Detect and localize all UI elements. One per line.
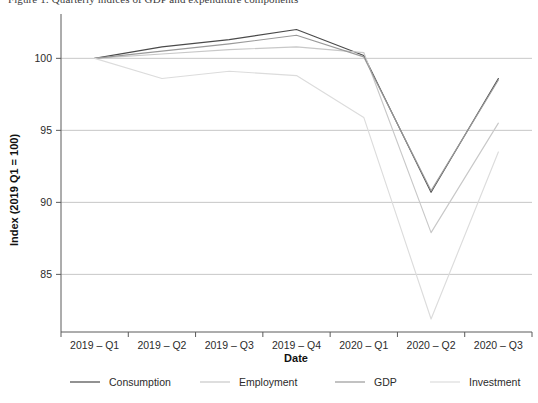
y-tick-label-group: 859095100 <box>34 52 52 280</box>
legend-label-gdp: GDP <box>374 376 397 388</box>
series-group <box>95 30 499 320</box>
series-line-investment <box>95 58 499 319</box>
series-line-employment <box>95 47 499 233</box>
x-tick-label: 2019 – Q2 <box>137 339 186 351</box>
x-tick-label: 2020 – Q3 <box>474 339 523 351</box>
x-tick-label: 2019 – Q3 <box>205 339 254 351</box>
legend: ConsumptionEmploymentGDPInvestment <box>70 376 520 388</box>
y-tick-label: 95 <box>40 124 52 136</box>
y-tick-label: 90 <box>40 196 52 208</box>
gridline-group <box>61 58 532 274</box>
chart-container: Figure 1: Quarterly indices of GDP and e… <box>0 0 538 403</box>
y-tick-label: 100 <box>34 52 52 64</box>
x-tick-label: 2019 – Q4 <box>272 339 321 351</box>
legend-label-investment: Investment <box>469 376 520 388</box>
legend-label-employment: Employment <box>239 376 297 388</box>
axes-group <box>56 14 532 337</box>
x-tick-label: 2020 – Q2 <box>407 339 456 351</box>
x-tick-label: 2019 – Q1 <box>70 339 119 351</box>
y-tick-label: 85 <box>40 268 52 280</box>
legend-label-consumption: Consumption <box>109 376 171 388</box>
line-chart: 859095100 2019 – Q12019 – Q22019 – Q3201… <box>0 0 538 403</box>
y-axis-title: Index (2019 Q1 = 100) <box>8 134 20 247</box>
x-tick-label-group: 2019 – Q12019 – Q22019 – Q32019 – Q42020… <box>70 339 523 351</box>
x-axis-title: Date <box>284 352 308 364</box>
x-tick-label: 2020 – Q1 <box>339 339 388 351</box>
